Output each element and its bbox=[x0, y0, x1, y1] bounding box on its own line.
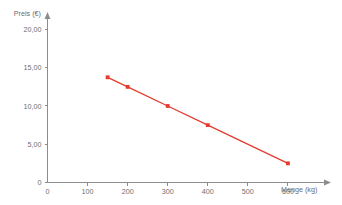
y-axis-group bbox=[45, 12, 51, 183]
chart-container: 05,0010,0015,0020,00 0100200300400500600… bbox=[0, 0, 342, 205]
x-tick-label: 400 bbox=[202, 187, 214, 196]
y-axis-arrowhead bbox=[45, 12, 51, 19]
demand-curve-chart: 05,0010,0015,0020,00 0100200300400500600… bbox=[0, 0, 342, 205]
data-series-group bbox=[106, 75, 290, 165]
y-tick-label: 5,00 bbox=[28, 140, 42, 149]
x-tick-label: 0 bbox=[46, 187, 50, 196]
data-point-marker bbox=[106, 75, 110, 79]
data-point-marker bbox=[166, 104, 170, 108]
x-tick-label: 200 bbox=[122, 187, 134, 196]
data-point-marker bbox=[206, 123, 210, 127]
x-axis-ticks: 0100200300400500600 bbox=[46, 183, 294, 196]
x-tick-label: 500 bbox=[242, 187, 254, 196]
y-axis-ticks: 05,0010,0015,0020,00 bbox=[24, 25, 48, 187]
y-tick-label: 20,00 bbox=[24, 25, 42, 34]
y-axis-title: Preis (€) bbox=[14, 9, 41, 18]
y-tick-label: 15,00 bbox=[24, 63, 42, 72]
x-tick-label: 300 bbox=[162, 187, 174, 196]
data-point-marker bbox=[126, 85, 130, 89]
data-point-marker bbox=[286, 161, 290, 165]
y-tick-label: 0 bbox=[38, 178, 42, 187]
series-line bbox=[108, 77, 288, 163]
x-axis-title: Menge (kg) bbox=[281, 185, 317, 194]
y-tick-label: 10,00 bbox=[24, 102, 42, 111]
x-tick-label: 100 bbox=[82, 187, 94, 196]
x-axis-arrowhead bbox=[324, 180, 331, 186]
